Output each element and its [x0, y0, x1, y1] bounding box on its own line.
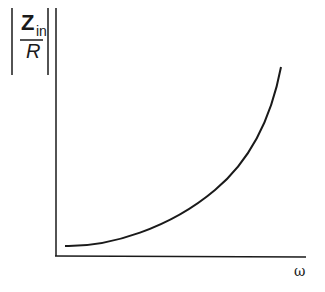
y-label-denominator: R — [26, 40, 40, 63]
impedance-curve — [65, 67, 281, 246]
x-axis-label: ω — [294, 263, 305, 279]
plot-canvas — [0, 0, 325, 292]
y-label-numerator: Z — [21, 10, 34, 36]
y-label-subscript: in — [36, 23, 47, 39]
x-axis — [55, 256, 306, 257]
